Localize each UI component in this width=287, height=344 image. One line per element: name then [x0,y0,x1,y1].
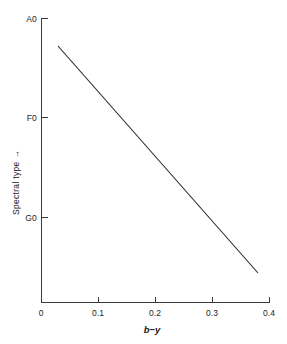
x-tick-label-0-2: 0.2 [149,308,161,318]
chart-figure: A0 F0 G0 0 0.1 0.2 0.3 0.4 b−y Spectral … [0,0,287,344]
y-axis-title: Spectral type → [11,150,21,215]
chart-background [0,0,287,344]
x-tick-label-0-1: 0.1 [92,308,104,318]
y-tick-label-f0: F0 [27,113,37,123]
x-tick-label-0: 0 [39,308,44,318]
y-axis-title-group: Spectral type → [11,150,21,215]
y-tick-label-g0: G0 [25,213,37,223]
spectral-type-line-chart: A0 F0 G0 0 0.1 0.2 0.3 0.4 b−y Spectral … [0,0,287,344]
x-tick-label-0-4: 0.4 [263,308,275,318]
x-tick-label-0-3: 0.3 [206,308,218,318]
x-axis-title: b−y [144,324,161,335]
y-tick-label-a0: A0 [26,14,37,24]
